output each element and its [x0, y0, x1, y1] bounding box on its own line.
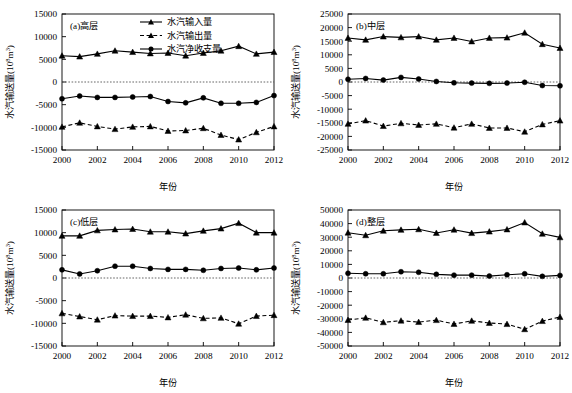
- x-tick-label: 2008: [480, 351, 499, 361]
- data-point: [522, 80, 527, 85]
- data-point: [469, 81, 474, 86]
- y-tick-label: -10000: [31, 319, 57, 329]
- data-point: [522, 129, 528, 134]
- x-tick-label: 2012: [265, 351, 284, 361]
- x-tick-label: 2000: [339, 351, 358, 361]
- data-point: [219, 101, 224, 106]
- data-point: [113, 95, 118, 100]
- data-point: [130, 94, 135, 99]
- data-point: [201, 95, 206, 100]
- y-axis-title: 水汽输送量(108m3): [4, 241, 15, 315]
- x-tick-label: 2004: [409, 351, 428, 361]
- data-point: [183, 100, 188, 105]
- x-tick-label: 2010: [229, 351, 248, 361]
- x-axis-title: 年份: [445, 377, 463, 388]
- data-point: [451, 227, 457, 232]
- x-tick-label: 2000: [53, 155, 72, 165]
- x-tick-label: 2002: [374, 351, 393, 361]
- x-tick-label: 2002: [88, 155, 107, 165]
- legend: 水汽输入量水汽输出量水汽净收支量: [140, 16, 221, 54]
- data-point: [363, 118, 369, 123]
- data-point: [399, 75, 404, 80]
- y-tick-label: 10000: [320, 50, 343, 60]
- data-point: [381, 271, 386, 276]
- data-point: [452, 80, 457, 85]
- y-tick-label: 10000: [34, 228, 57, 238]
- y-tick-label: 20000: [320, 23, 343, 33]
- data-point: [539, 231, 545, 236]
- data-point: [363, 271, 368, 276]
- data-point: [271, 123, 277, 128]
- y-tick-label: -5000: [36, 296, 58, 306]
- x-tick-label: 2012: [265, 155, 284, 165]
- x-axis-title: 年份: [159, 181, 177, 192]
- x-tick-label: 2008: [480, 155, 499, 165]
- x-tick-label: 2000: [53, 351, 72, 361]
- data-point: [469, 273, 474, 278]
- x-tick-label: 2006: [159, 155, 178, 165]
- y-tick-label: 10000: [320, 260, 343, 270]
- data-point: [236, 220, 242, 225]
- data-point: [558, 83, 563, 88]
- data-point: [254, 267, 259, 272]
- y-axis-title: 水汽输送量(108m3): [290, 45, 301, 119]
- y-tick-label: -20000: [317, 301, 343, 311]
- data-point: [166, 267, 171, 272]
- data-point: [254, 100, 259, 105]
- data-point: [557, 118, 563, 123]
- data-point: [434, 272, 439, 277]
- panel-title: (a)高层: [70, 20, 98, 31]
- y-tick-label: 15000: [34, 9, 57, 19]
- y-tick-label: 40000: [320, 219, 343, 229]
- y-tick-label: 0: [338, 77, 343, 87]
- data-point: [166, 99, 171, 104]
- legend-item-net[interactable]: 水汽净收支量: [140, 43, 221, 54]
- y-tick-label: -40000: [317, 328, 343, 338]
- data-point: [148, 94, 153, 99]
- data-point: [236, 266, 241, 271]
- data-point: [113, 264, 118, 269]
- y-axis-title: 水汽输送量(108m3): [4, 45, 15, 119]
- data-point: [522, 220, 528, 225]
- y-tick-label: 5000: [39, 251, 58, 261]
- data-point: [540, 274, 545, 279]
- x-tick-label: 2010: [229, 155, 248, 165]
- data-point: [557, 314, 563, 319]
- data-point: [77, 271, 82, 276]
- y-tick-label: 15000: [320, 37, 343, 47]
- data-point: [183, 312, 189, 317]
- legend-label-net: 水汽净收支量: [167, 43, 221, 54]
- data-point: [236, 43, 242, 48]
- x-axis-title: 年份: [159, 377, 177, 388]
- data-point: [219, 266, 224, 271]
- x-tick-label: 2006: [445, 351, 464, 361]
- data-point: [201, 268, 206, 273]
- x-tick-label: 2010: [515, 155, 534, 165]
- data-point: [272, 93, 277, 98]
- data-point: [434, 79, 439, 84]
- legend-item-output[interactable]: 水汽输出量: [140, 30, 212, 41]
- data-point: [346, 77, 351, 82]
- y-tick-label: 25000: [320, 9, 343, 19]
- y-tick-label: 50000: [320, 205, 343, 215]
- x-tick-label: 2004: [123, 155, 142, 165]
- panel-title: (c)低层: [70, 216, 98, 227]
- figure-four-panel-water-vapor-transport: -15000-10000-500005000100001500020002002…: [0, 0, 572, 393]
- data-point: [505, 272, 510, 277]
- legend-label-input: 水汽输入量: [167, 16, 212, 27]
- y-axis-title: 水汽输送量(108m3): [290, 241, 301, 315]
- data-point: [505, 81, 510, 86]
- legend-item-input[interactable]: 水汽输入量: [140, 16, 212, 27]
- y-tick-label: 5000: [325, 64, 344, 74]
- data-point: [130, 264, 135, 269]
- x-tick-label: 2008: [194, 351, 213, 361]
- data-point: [345, 230, 351, 235]
- data-point: [522, 326, 528, 331]
- x-tick-label: 2006: [445, 155, 464, 165]
- x-tick-label: 2008: [194, 155, 213, 165]
- x-tick-label: 2000: [339, 155, 358, 165]
- data-point: [487, 274, 492, 279]
- data-point: [95, 95, 100, 100]
- x-tick-label: 2002: [374, 155, 393, 165]
- x-tick-label: 2006: [159, 351, 178, 361]
